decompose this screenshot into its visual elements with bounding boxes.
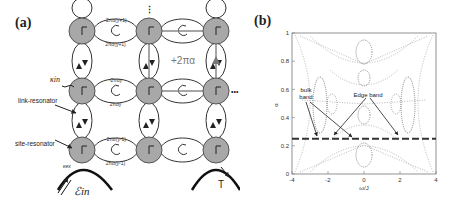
flux-label: +2πα [171,55,195,66]
lattice-svg: -2πα(y+1) 2πα(y+1) -2παy 2παy -2πα(y-1) … [0,0,240,203]
ellipsis-top: ⋮ [145,5,154,15]
ytick-label: 0.4 [281,115,290,121]
site-resonator-label: site-resonator [15,140,56,147]
xtick-label: 4 [434,177,438,183]
edge-band-annotation: Edge band [353,92,382,98]
butterfly-chart-svg: bulk band Edge band -4 -2 0 2 4 0 0.2 0.… [240,0,452,203]
xtick-label: -2 [325,177,331,183]
y-axis-label: α [273,103,279,107]
phase-mid-lower: 2παy [110,101,122,107]
x-axis-label: ω/J [359,185,368,191]
phase-bot-lower: 2πα(y-1) [106,160,126,166]
panel-a-lattice-diagram: (a) [0,0,240,203]
transmission-label: T [218,179,224,190]
ellipsis-right: ••• [231,88,239,95]
ytick-label: 0.8 [281,58,290,64]
ytick-label: 0.6 [281,87,290,93]
phase-mid-upper: -2παy [109,77,123,83]
phase-bot-upper: -2πα(y-1) [105,136,126,142]
xtick-label: 2 [398,177,402,183]
bulk-band-annotation-line2: band [299,94,312,100]
kappa-ex-label: κex [63,163,71,169]
ytick-label: 0.2 [281,143,290,149]
xtick-label: -4 [289,177,295,183]
kappa-in-label: κin [50,75,60,84]
input-field-label: ℰin [74,185,90,197]
panel-b-chart: (b) [240,0,452,203]
xtick-label: 0 [362,177,366,183]
phase-top-lower: 2πα(y+1) [105,41,126,47]
phase-top-upper: -2πα(y+1) [104,17,127,23]
ytick-label: 1 [286,30,290,36]
plot-area [292,33,436,174]
bulk-band-annotation-line1: bulk [300,87,312,93]
link-resonator-label: link-resonator [18,97,58,104]
